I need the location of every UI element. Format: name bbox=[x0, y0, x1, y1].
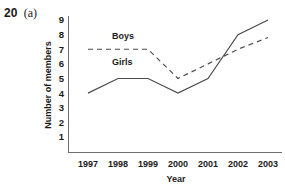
x-tick-label: 2001 bbox=[198, 159, 218, 169]
y-tick-label: 1 bbox=[59, 131, 65, 142]
series-label-girls: Girls bbox=[112, 57, 133, 67]
y-tick-label: 6 bbox=[59, 58, 64, 69]
series-label-boys: Boys bbox=[112, 31, 134, 41]
y-tick-label: 3 bbox=[59, 102, 64, 113]
chart-page: 20 (a) 987654321 19971998199920002001200… bbox=[0, 0, 285, 186]
line-chart: 987654321 1997199819992000200120022003 N… bbox=[0, 0, 285, 186]
x-tick-label: 2002 bbox=[228, 159, 248, 169]
y-tick-label: 2 bbox=[59, 117, 64, 128]
x-tick-label: 1997 bbox=[78, 159, 98, 169]
x-tick-label: 2000 bbox=[168, 159, 188, 169]
x-tick-label: 1999 bbox=[138, 159, 158, 169]
x-tick-labels: 1997199819992000200120022003 bbox=[78, 159, 278, 169]
x-axis-title: Year bbox=[166, 174, 186, 184]
y-axis-title: Number of members bbox=[43, 41, 53, 129]
y-tick-label: 7 bbox=[59, 44, 64, 55]
y-tick-label: 5 bbox=[59, 73, 65, 84]
y-tick-label: 4 bbox=[59, 88, 65, 99]
y-tick-label: 8 bbox=[59, 29, 64, 40]
y-tick-label: 9 bbox=[59, 14, 64, 25]
x-tick-label: 1998 bbox=[108, 159, 128, 169]
x-tick-label: 2003 bbox=[258, 159, 278, 169]
y-tick-labels: 987654321 bbox=[59, 14, 65, 142]
